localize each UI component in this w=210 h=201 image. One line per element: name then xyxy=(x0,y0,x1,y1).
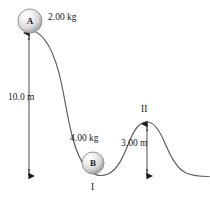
track-curve xyxy=(31,30,209,177)
point-label-i: I xyxy=(91,183,94,193)
mass-label-b: 4.00 kg xyxy=(70,134,99,144)
height-label-10m: 10.0 m xyxy=(8,93,34,103)
ball-b-letter: B xyxy=(87,159,99,168)
physics-diagram: A B 2.00 kg 4.00 kg 10.0 m 3.00 m I II xyxy=(0,0,210,201)
point-label-ii: II xyxy=(141,105,147,115)
ball-a-letter: A xyxy=(24,17,36,26)
mass-label-a: 2.00 kg xyxy=(48,13,77,23)
height-label-3m: 3.00 m xyxy=(121,139,147,149)
